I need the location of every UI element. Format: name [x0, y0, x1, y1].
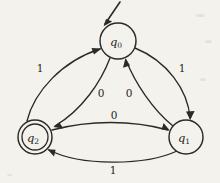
edge-q2-to-q1: [52, 123, 170, 131]
edge-q0-to-q1-arrowhead: [186, 111, 195, 120]
diagram-canvas: q0 q1 q2: [0, 0, 220, 183]
state-q2-label-text: q: [27, 131, 34, 145]
edge-q0-to-q1-path: [135, 48, 190, 118]
state-q1[interactable]: q1: [169, 120, 203, 154]
state-q1-label-text: q: [178, 131, 185, 145]
edge-q2-to-q0-path: [27, 49, 100, 121]
state-q2-label-subscript: 2: [34, 137, 39, 146]
scan-speck: [196, 14, 205, 17]
automaton-diagram: q0 q1 q2 0 0 0 1 1 1: [0, 0, 220, 183]
state-q2[interactable]: q2: [18, 120, 52, 154]
state-q0[interactable]: q0: [100, 23, 136, 59]
edge-q2-to-q0-arrowhead: [92, 48, 102, 55]
edge-label-q1-to-q0: 0: [126, 88, 133, 99]
scan-speck: [7, 174, 12, 176]
edge-q1-to-q2-arrowhead: [47, 149, 55, 156]
edge-label-q0-to-q2: 0: [98, 88, 105, 99]
state-q1-label-subscript: 1: [185, 137, 190, 146]
edge-q1-to-q2-path: [49, 150, 177, 162]
edge-q2-to-q1-arrowhead: [162, 123, 170, 131]
edge-label-q2-to-q1: 0: [111, 110, 118, 121]
edge-q2-to-q0: [27, 48, 102, 121]
edge-label-q0-to-q1: 1: [179, 63, 186, 74]
scan-speck: [205, 40, 212, 43]
scan-speck: [200, 78, 206, 81]
state-q0-label-text: q: [110, 35, 117, 49]
edge-q2-to-q1-path: [52, 123, 168, 131]
edge-label-q1-to-q2: 1: [110, 165, 117, 176]
edge-label-q2-to-q0: 1: [37, 63, 44, 74]
edge-q1-to-q0-path: [126, 60, 173, 126]
state-q0-label-subscript: 0: [117, 41, 122, 50]
edge-q1-to-q2: [47, 149, 177, 162]
edge-q0-to-q1: [135, 48, 195, 120]
